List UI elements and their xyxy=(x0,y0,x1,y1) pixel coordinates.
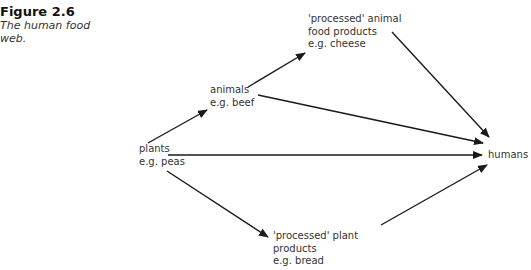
edge-plants-animals xyxy=(148,110,207,143)
node-plants-example: e.g. peas xyxy=(139,156,185,169)
node-processed-plant-label1: 'processed' plant xyxy=(273,230,358,243)
food-web-edges xyxy=(0,0,531,270)
node-animals-example: e.g. beef xyxy=(210,97,254,110)
node-processed-plant-example: e.g. bread xyxy=(273,255,358,268)
node-processed-animal-example: e.g. cheese xyxy=(308,38,402,51)
node-processed-plant: 'processed' plant products e.g. bread xyxy=(273,230,358,268)
edge-animals-processed-animal xyxy=(248,53,305,87)
edge-plants-processed-plant xyxy=(167,171,268,237)
edge-processed-plant-humans xyxy=(381,165,487,225)
edge-animals-humans xyxy=(258,95,483,143)
node-animals-label: animals xyxy=(210,84,254,97)
node-processed-animal: 'processed' animal food products e.g. ch… xyxy=(308,13,402,51)
node-animals: animals e.g. beef xyxy=(210,84,254,109)
edge-processed-animal-humans xyxy=(392,32,489,137)
node-plants-label: plants xyxy=(139,143,185,156)
node-humans: humans xyxy=(488,149,528,162)
node-processed-animal-label2: food products xyxy=(308,26,402,39)
node-plants: plants e.g. peas xyxy=(139,143,185,168)
node-processed-animal-label1: 'processed' animal xyxy=(308,13,402,26)
node-humans-label: humans xyxy=(488,149,528,162)
node-processed-plant-label2: products xyxy=(273,243,358,256)
